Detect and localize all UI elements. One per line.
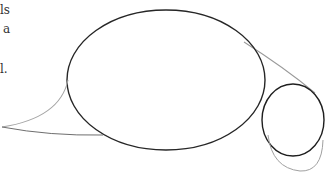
head-lower-arc (268, 135, 323, 171)
pencil-sketch (0, 0, 330, 173)
head-circle (262, 84, 324, 156)
tail-bottom-line (2, 127, 103, 135)
tail-upper-curve (2, 80, 68, 127)
body-oval (67, 10, 265, 150)
